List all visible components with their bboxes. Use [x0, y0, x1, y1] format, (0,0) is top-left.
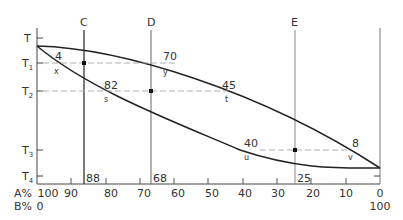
point-s-label: s	[104, 95, 108, 104]
label-e: E	[291, 16, 298, 29]
svg-text:90: 90	[64, 187, 78, 200]
b-tick-end: 100	[370, 200, 391, 213]
svg-text:60: 60	[171, 187, 185, 200]
svg-text:20: 20	[306, 187, 320, 200]
point-v-label: v	[348, 153, 353, 162]
label-d: D	[147, 16, 155, 29]
svg-text:0: 0	[377, 187, 384, 200]
value-e: 25	[297, 172, 311, 185]
svg-text:70: 70	[137, 187, 151, 200]
y-label-t1: T1	[21, 57, 33, 72]
svg-text:40: 40	[238, 187, 252, 200]
svg-text:30: 30	[271, 187, 285, 200]
a-tick-labels: 100 90 80 70 60 50 40 30 20 10 0	[38, 187, 384, 200]
svg-text:10: 10	[339, 187, 353, 200]
y-label-t: T	[23, 32, 31, 45]
tie-t2-left-value: 82	[104, 79, 118, 92]
tie-t2-right-value: 45	[222, 79, 236, 92]
svg-text:100: 100	[38, 187, 59, 200]
svg-text:50: 50	[205, 187, 219, 200]
tie-t1-right-value: 70	[163, 50, 177, 63]
point-d-t2	[149, 89, 153, 93]
b-tick-start: 0	[37, 200, 44, 213]
a-percent-label: A%	[14, 187, 32, 200]
y-label-t3: T3	[21, 144, 33, 159]
y-label-t4: T4	[21, 170, 34, 185]
b-percent-label: B%	[14, 200, 32, 213]
label-c: C	[80, 16, 88, 29]
point-x-label: x	[54, 67, 59, 76]
y-label-t2: T2	[21, 85, 33, 100]
y-ticks	[37, 38, 380, 176]
tie-t1-left-value: 4	[55, 50, 62, 63]
point-c-t1	[82, 61, 86, 65]
point-u-label: u	[244, 153, 249, 162]
tie-lines	[43, 63, 350, 150]
svg-text:80: 80	[104, 187, 118, 200]
point-e-t3	[293, 148, 297, 152]
point-y-label: y	[163, 68, 168, 77]
tie-t3-right-value: 8	[352, 137, 359, 150]
point-t-label: t	[225, 95, 228, 104]
phase-diagram: T T1 T2 T3 T4 C D E 88 68 25 4 x 70 y 82…	[0, 0, 403, 220]
value-d: 68	[153, 172, 167, 185]
value-c: 88	[86, 172, 100, 185]
tie-t3-left-value: 40	[244, 137, 258, 150]
